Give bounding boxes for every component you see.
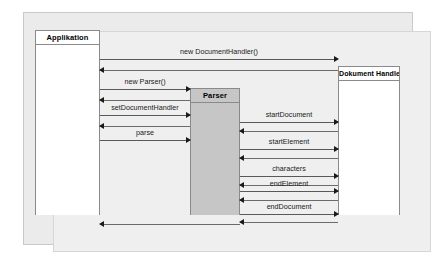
participant-document-handler-label: Dokument Handler xyxy=(339,67,399,81)
message-line xyxy=(100,89,190,90)
participant-application[interactable]: Applikation xyxy=(35,30,100,215)
participant-document-handler-lifeline xyxy=(339,81,399,215)
message-line xyxy=(100,115,190,116)
arrowhead-left-icon xyxy=(239,155,244,161)
message-line xyxy=(240,176,338,177)
message-line xyxy=(100,59,338,60)
sequence-diagram-canvas: Applikation Parser Dokument Handler new … xyxy=(0,0,436,268)
message-line xyxy=(240,191,338,192)
participant-application-label: Applikation xyxy=(36,31,99,45)
arrowhead-left-icon xyxy=(99,67,104,73)
message-label: startDocument xyxy=(240,110,338,120)
message-label: endElement xyxy=(240,179,338,189)
message-line xyxy=(240,158,338,159)
message-line xyxy=(240,122,338,123)
message-line xyxy=(240,222,338,223)
message-line xyxy=(100,224,240,225)
message-label: new Parser() xyxy=(100,77,190,87)
participant-parser-lifeline xyxy=(191,103,239,215)
message-label: parse xyxy=(100,128,190,138)
message-line xyxy=(100,140,190,141)
message-line xyxy=(240,200,338,201)
arrowhead-right-icon xyxy=(334,188,339,194)
arrowhead-left-icon xyxy=(239,128,244,134)
message-label: new DocumentHandler() xyxy=(100,47,338,57)
arrowhead-left-icon xyxy=(99,221,104,227)
participant-parser[interactable]: Parser xyxy=(190,88,240,215)
message-line xyxy=(100,126,190,127)
message-line xyxy=(240,149,338,150)
arrowhead-right-icon xyxy=(334,211,339,217)
message-label: characters xyxy=(240,164,338,174)
participant-parser-label: Parser xyxy=(191,89,239,103)
arrowhead-right-icon xyxy=(186,137,191,143)
message-line xyxy=(240,131,338,132)
arrowhead-right-icon xyxy=(334,56,339,62)
message-label: startElement xyxy=(240,137,338,147)
arrowhead-right-icon xyxy=(186,86,191,92)
arrowhead-right-icon xyxy=(334,119,339,125)
message-label: endDocument xyxy=(240,202,338,212)
arrowhead-right-icon xyxy=(186,112,191,118)
participant-document-handler[interactable]: Dokument Handler xyxy=(338,66,400,215)
arrowhead-right-icon xyxy=(334,146,339,152)
message-line xyxy=(240,214,338,215)
message-line xyxy=(100,100,190,101)
participant-application-lifeline xyxy=(36,45,99,215)
message-label: setDocumentHandler xyxy=(100,103,190,113)
message-line xyxy=(100,70,338,71)
